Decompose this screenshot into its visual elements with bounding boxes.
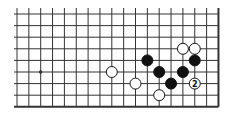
white-stone: 2 [189,78,200,89]
black-stone [166,78,177,89]
white-stone-circle [189,43,200,54]
white-stone-circle [130,78,141,89]
white-stone-circle [106,67,117,78]
black-stone-circle [142,55,153,66]
black-stone-circle [189,55,200,66]
black-stone [154,67,165,78]
white-stone-circle [177,43,188,54]
board-grid [14,8,218,107]
black-stone-circle [177,67,188,78]
star-points [39,70,43,74]
black-stone [189,55,200,66]
black-stone [177,67,188,78]
star-point-marker [39,70,43,74]
white-stone [189,43,200,54]
stone-move-number: 2 [192,80,198,89]
white-stone-circle [154,90,165,101]
white-stone [177,43,188,54]
white-stone [154,90,165,101]
black-stone-circle [166,78,177,89]
black-stone-circle [154,67,165,78]
black-stone [142,55,153,66]
white-stone [130,78,141,89]
go-board-diagram: 2 [0,0,238,119]
white-stone [106,67,117,78]
